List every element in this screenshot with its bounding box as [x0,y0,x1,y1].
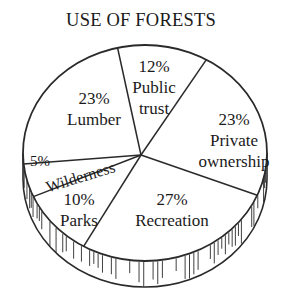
slice-label-name: Lumber [67,110,121,129]
slice-label-pct: 12% [138,57,169,76]
slice-label-pct: 27% [156,190,187,209]
slice-label-name: Recreation [135,211,209,230]
pie-chart: USE OF FORESTS 12%Publictrust23%Privateo… [0,0,282,294]
slice-label-name: Public [132,78,176,97]
slice-label-pct: 23% [78,89,109,108]
slice-label-name: Parks [60,211,98,230]
slice-label-name: Private [210,131,258,150]
slice-label-pct: 23% [218,110,249,129]
pie-graphic: 12%Publictrust23%Privateownership27%Recr… [0,0,282,294]
slice-label-pct: 5% [30,153,50,169]
slice-label-name: trust [139,99,170,118]
slice-label-pct: 10% [63,190,94,209]
slice-label-name: ownership [199,152,270,171]
chart-title: USE OF FORESTS [0,10,282,31]
